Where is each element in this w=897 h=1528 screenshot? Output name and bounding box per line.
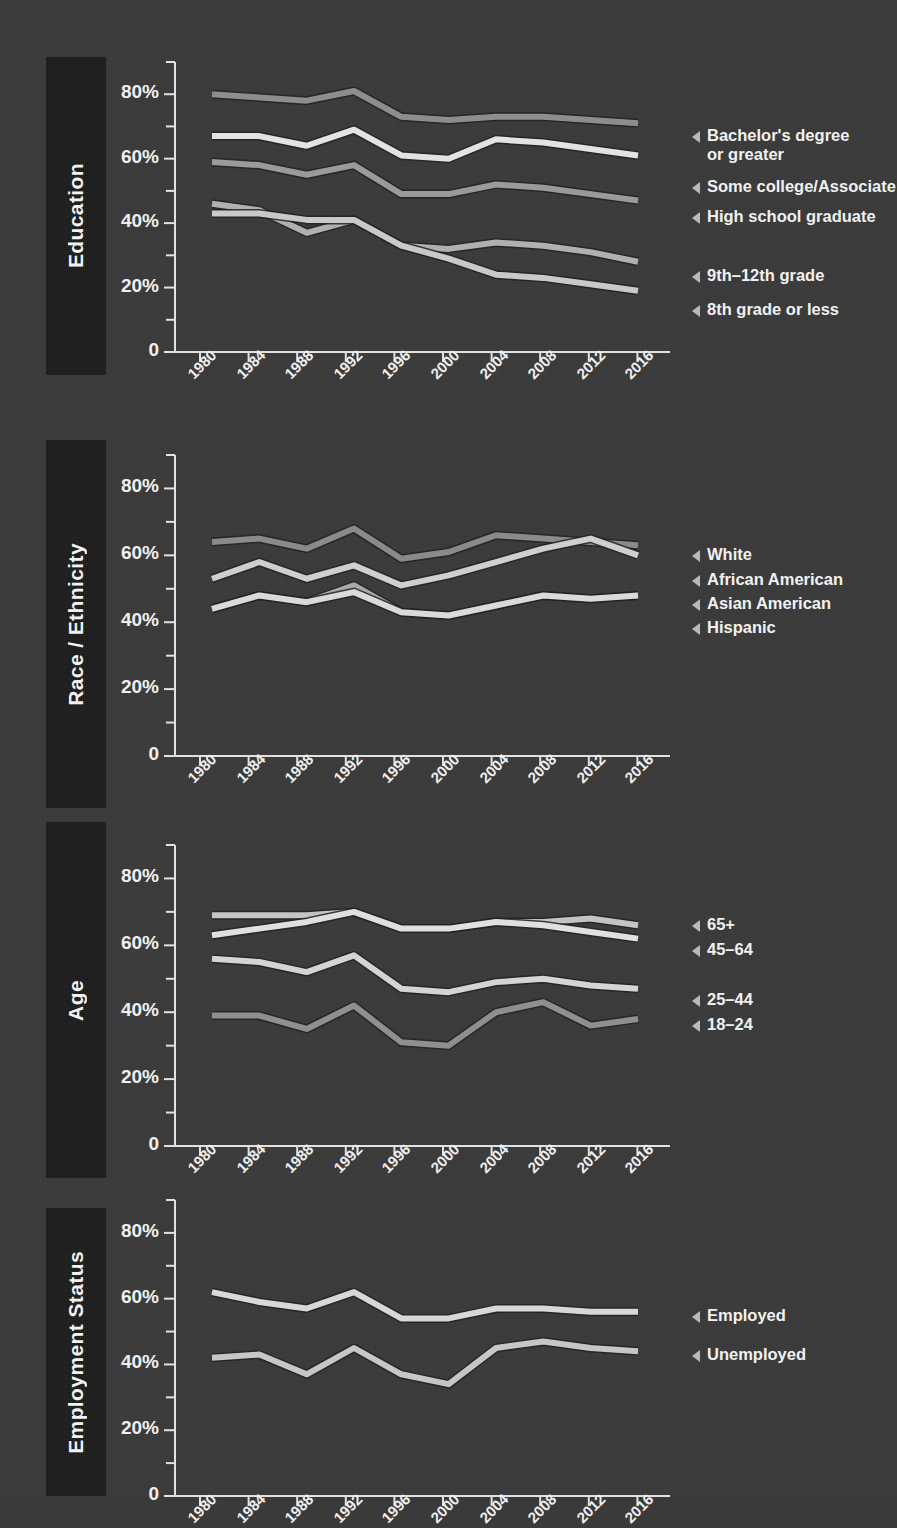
legend-item[interactable]: Hispanic bbox=[692, 618, 776, 637]
y-axis-tick-label: 60% bbox=[121, 542, 159, 564]
legend-item[interactable]: 18–24 bbox=[692, 1015, 753, 1034]
legend-label-line1: African American bbox=[707, 570, 843, 588]
legend-label: Employed bbox=[707, 1306, 786, 1325]
y-axis-tick-label: 80% bbox=[121, 475, 159, 497]
legend-arrow-icon bbox=[692, 271, 700, 283]
legend-item[interactable]: High school graduate bbox=[692, 207, 876, 226]
legend-label: Hispanic bbox=[707, 618, 776, 637]
category-tab-label: Race / Ethnicity bbox=[64, 543, 88, 706]
legend-label: High school graduate bbox=[707, 207, 876, 226]
legend-item[interactable]: 8th grade or less bbox=[692, 300, 839, 319]
legend-label-line1: Employed bbox=[707, 1306, 786, 1324]
legend-label-line1: Bachelor's degree bbox=[707, 126, 849, 144]
y-axis-tick-label: 80% bbox=[121, 81, 159, 103]
legend-label: African American bbox=[707, 570, 843, 589]
legend-label: White bbox=[707, 545, 752, 564]
y-axis-tick-label: 60% bbox=[121, 1286, 159, 1308]
legend-label-line1: 9th–12th grade bbox=[707, 266, 824, 284]
y-axis-tick-label: 20% bbox=[121, 1066, 159, 1088]
y-axis-tick-label: 40% bbox=[121, 609, 159, 631]
legend-label-line1: 45–64 bbox=[707, 940, 753, 958]
category-tab[interactable]: Race / Ethnicity bbox=[46, 440, 106, 808]
y-axis-tick-label: 20% bbox=[121, 1417, 159, 1439]
y-axis-tick-label: 40% bbox=[121, 210, 159, 232]
y-axis-tick-label: 0 bbox=[148, 339, 159, 361]
legend-item[interactable]: Asian American bbox=[692, 594, 831, 613]
legend-arrow-icon bbox=[692, 575, 700, 587]
legend-label-line1: 65+ bbox=[707, 915, 735, 933]
legend-item[interactable]: Unemployed bbox=[692, 1345, 806, 1364]
legend-label-line1: 25–44 bbox=[707, 990, 753, 1008]
legend-item[interactable]: Bachelor's degreeor greater bbox=[692, 126, 849, 164]
legend-label-line1: High school graduate bbox=[707, 207, 876, 225]
y-axis-tick-label: 0 bbox=[148, 1133, 159, 1155]
series-line[interactable] bbox=[212, 91, 638, 123]
legend-arrow-icon bbox=[692, 182, 700, 194]
y-axis-tick-label: 80% bbox=[121, 1220, 159, 1242]
series-line[interactable] bbox=[212, 162, 638, 201]
legend-label-line1: 8th grade or less bbox=[707, 300, 839, 318]
series-line[interactable] bbox=[212, 592, 638, 615]
legend-arrow-icon bbox=[692, 1350, 700, 1362]
y-axis-tick-label: 0 bbox=[148, 1483, 159, 1505]
legend-item[interactable]: 45–64 bbox=[692, 940, 753, 959]
legend-arrow-icon bbox=[692, 945, 700, 957]
legend-label: Unemployed bbox=[707, 1345, 806, 1364]
y-axis-tick-label: 40% bbox=[121, 999, 159, 1021]
category-tab-label: Employment Status bbox=[64, 1251, 88, 1454]
y-axis-tick-label: 40% bbox=[121, 1351, 159, 1373]
legend-label: 65+ bbox=[707, 915, 735, 934]
legend-label-line1: Hispanic bbox=[707, 618, 776, 636]
legend-arrow-icon bbox=[692, 920, 700, 932]
y-axis-tick-label: 60% bbox=[121, 932, 159, 954]
category-tab-label: Education bbox=[64, 163, 88, 268]
legend-label: Some college/Associate bbox=[707, 177, 896, 196]
legend-arrow-icon bbox=[692, 550, 700, 562]
category-tab-label: Age bbox=[64, 980, 88, 1021]
y-axis-tick-label: 20% bbox=[121, 275, 159, 297]
category-tab[interactable]: Age bbox=[46, 822, 106, 1178]
legend-item[interactable]: Some college/Associate bbox=[692, 177, 896, 196]
legend-label: 18–24 bbox=[707, 1015, 753, 1034]
legend-arrow-icon bbox=[692, 305, 700, 317]
legend-arrow-icon bbox=[692, 995, 700, 1007]
category-tab[interactable]: Employment Status bbox=[46, 1208, 106, 1496]
legend-item[interactable]: Employed bbox=[692, 1306, 786, 1325]
legend-arrow-icon bbox=[692, 212, 700, 224]
legend-label-line1: Some college/Associate bbox=[707, 177, 896, 195]
legend-label: 8th grade or less bbox=[707, 300, 839, 319]
y-axis-tick-label: 20% bbox=[121, 676, 159, 698]
legend-label-line1: Asian American bbox=[707, 594, 831, 612]
legend-item[interactable]: 65+ bbox=[692, 915, 735, 934]
series-outline bbox=[212, 955, 638, 992]
legend-item[interactable]: African American bbox=[692, 570, 843, 589]
legend-arrow-icon bbox=[692, 131, 700, 143]
legend-arrow-icon bbox=[692, 1020, 700, 1032]
y-axis-tick-label: 80% bbox=[121, 865, 159, 887]
legend-arrow-icon bbox=[692, 1311, 700, 1323]
category-tab[interactable]: Education bbox=[46, 57, 106, 375]
legend-label-line1: White bbox=[707, 545, 752, 563]
legend-label: 45–64 bbox=[707, 940, 753, 959]
legend-label: 25–44 bbox=[707, 990, 753, 1009]
legend-label-line1: 18–24 bbox=[707, 1015, 753, 1033]
legend-arrow-icon bbox=[692, 623, 700, 635]
legend-label-line1: Unemployed bbox=[707, 1345, 806, 1363]
legend-label-line2: or greater bbox=[707, 145, 849, 164]
legend-label: 9th–12th grade bbox=[707, 266, 824, 285]
y-axis-tick-label: 0 bbox=[148, 743, 159, 765]
legend-label: Asian American bbox=[707, 594, 831, 613]
legend-item[interactable]: White bbox=[692, 545, 752, 564]
series-outline bbox=[212, 1002, 638, 1045]
legend-label: Bachelor's degreeor greater bbox=[707, 126, 849, 164]
legend-item[interactable]: 9th–12th grade bbox=[692, 266, 824, 285]
series-line[interactable] bbox=[212, 1341, 638, 1384]
y-axis-tick-label: 60% bbox=[121, 146, 159, 168]
legend-arrow-icon bbox=[692, 599, 700, 611]
series-line[interactable] bbox=[212, 130, 638, 159]
legend-item[interactable]: 25–44 bbox=[692, 990, 753, 1009]
